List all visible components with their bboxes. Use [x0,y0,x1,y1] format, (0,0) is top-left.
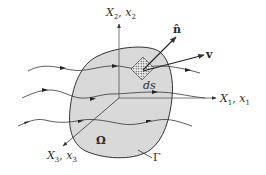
axis-x2-label: X2, x2 [106,7,136,21]
axis-x2-sub-sec: 2 [132,13,136,21]
region-omega [70,47,173,158]
boundary-gamma-label: Γ [153,152,161,163]
axis-x2-label-main: X [106,6,114,19]
axis-x1-label-main: X [220,92,228,105]
normal-vector-label: n̂ [173,24,181,35]
diagram-canvas [0,0,266,175]
surface-element-text: ds [143,79,156,92]
velocity-vector-label: v [206,49,212,60]
axis-x1-label: X1, x1 [220,93,250,107]
axis-x3-label: X3, x3 [47,150,77,164]
region-omega-label: Ω [96,135,106,146]
axis-x3-label-main: X [47,149,55,162]
axis-x3-sub-sec: 3 [73,156,77,164]
axis-x1-sub-sec: 1 [246,99,250,107]
surface-element-label: ds [143,80,156,91]
